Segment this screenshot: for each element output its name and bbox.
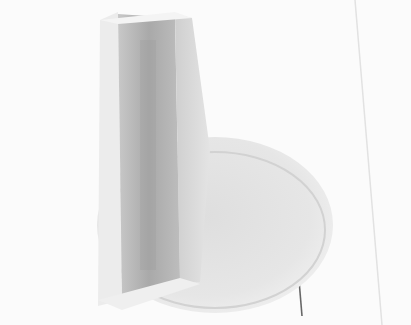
photo [0, 0, 411, 325]
ridge-shadow [140, 40, 156, 270]
ridge-left-wall [98, 12, 122, 306]
floor-line [355, 0, 382, 325]
knob-illustration [0, 0, 411, 325]
